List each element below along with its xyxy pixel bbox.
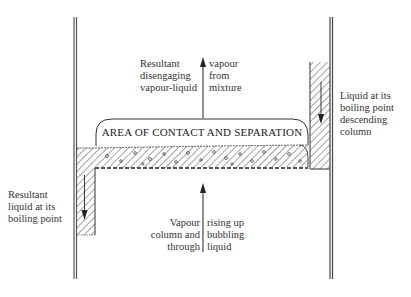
up-arrow-icon: [200, 183, 206, 193]
right-downcomer: [310, 62, 330, 169]
svg-text:through: through: [167, 241, 200, 252]
svg-text:bubbling: bubbling: [207, 229, 245, 240]
svg-text:Vapour: Vapour: [170, 217, 201, 228]
label-vapour-column: Vapour column and through: [151, 217, 201, 252]
svg-text:Liquid at its: Liquid at its: [340, 90, 391, 101]
tray-diagram: AREA OF CONTACT AND SEPARATION Resultant…: [0, 0, 411, 297]
svg-text:vapour-liquid: vapour-liquid: [140, 82, 198, 93]
left-downcomer: [77, 148, 96, 235]
svg-text:Resultant: Resultant: [8, 189, 48, 200]
label-rising-bubbling: rising up bubbling liquid: [207, 217, 245, 252]
up-arrow-icon: [200, 57, 206, 67]
left-column-wall: [74, 17, 77, 279]
bottom-vapour-arrow: [200, 183, 206, 252]
svg-text:boiling point: boiling point: [8, 213, 62, 224]
svg-text:column: column: [340, 126, 372, 137]
right-column-wall: [330, 17, 333, 279]
svg-text:descending: descending: [340, 114, 388, 125]
svg-text:disengaging: disengaging: [140, 70, 191, 81]
svg-text:boiling point: boiling point: [340, 102, 394, 113]
svg-text:mixture: mixture: [209, 82, 242, 93]
tray-liquid-layer: [77, 145, 309, 168]
svg-text:from: from: [209, 70, 229, 81]
label-resultant-disengaging: Resultant disengaging vapour-liquid: [140, 58, 198, 93]
label-vapour-from-mixture: vapour from mixture: [209, 58, 242, 93]
top-vapour-arrow: [200, 57, 206, 118]
label-liquid-descending: Liquid at its boiling point descending c…: [340, 90, 394, 137]
svg-text:liquid at its: liquid at its: [8, 201, 55, 212]
label-resultant-liquid: Resultant liquid at its boiling point: [8, 189, 62, 224]
svg-text:column and: column and: [151, 229, 201, 240]
svg-text:liquid: liquid: [207, 241, 232, 252]
svg-text:rising up: rising up: [207, 217, 244, 228]
contact-area-label: AREA OF CONTACT AND SEPARATION: [102, 126, 303, 138]
svg-text:Resultant: Resultant: [140, 58, 180, 69]
svg-text:vapour: vapour: [209, 58, 239, 69]
